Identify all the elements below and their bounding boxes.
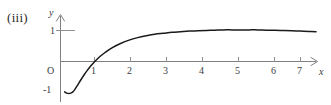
y-tick-label-neg1: -1 [43, 84, 51, 95]
x-tick-label-7: 7 [297, 65, 302, 76]
y-axis-label: y [48, 7, 54, 18]
x-axis-label: x [318, 66, 324, 77]
x-tick-label-3: 3 [163, 65, 168, 76]
x-tick-label-2: 2 [127, 65, 132, 76]
y-tick-label-1: 1 [50, 25, 55, 36]
x-tick-label-6: 6 [271, 65, 276, 76]
figure-container: (iii) 1 2 3 4 5 6 7 1 -1 O y x [0, 0, 331, 105]
x-tick-label-4: 4 [199, 65, 204, 76]
x-tick-label-1: 1 [91, 65, 96, 76]
origin-label: O [47, 65, 54, 76]
x-tick-label-5: 5 [235, 65, 240, 76]
graph-plot: 1 2 3 4 5 6 7 1 -1 O y x [0, 0, 331, 105]
